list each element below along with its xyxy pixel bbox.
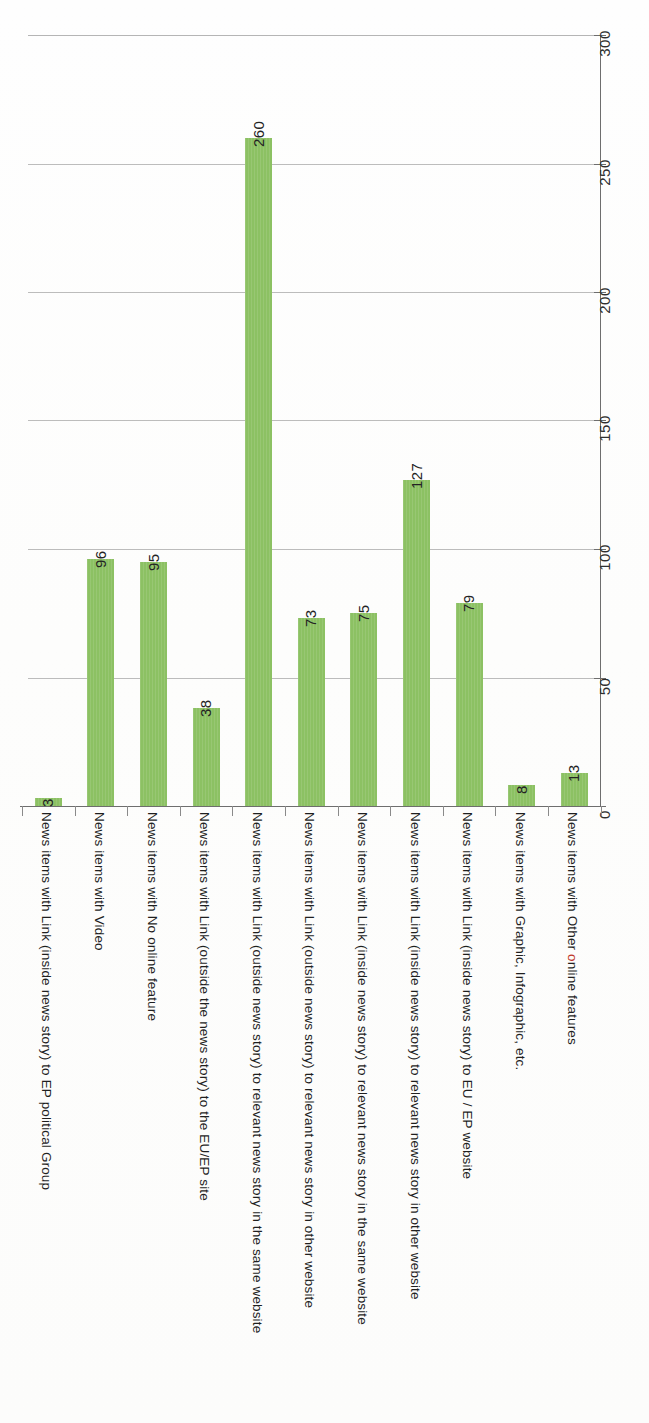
value-tick-label-200: 200 <box>596 287 613 314</box>
category-label: News items with Link (outside news story… <box>250 812 265 1333</box>
bar-value-label: 260 <box>250 121 267 147</box>
category-label: News items with Graphic, Infographic, et… <box>513 812 528 1070</box>
bar-value-label: 8 <box>513 786 530 795</box>
gridline-250 <box>28 164 600 165</box>
category-label: News items with Link (inside news story)… <box>355 812 370 1325</box>
category-label: News items with Other online features <box>565 812 580 1045</box>
gridline-300 <box>28 35 600 36</box>
value-tick-label-150: 150 <box>596 415 613 442</box>
bar-value-label: 95 <box>145 553 162 571</box>
bar <box>140 562 167 806</box>
bar-value-label: 3 <box>39 799 56 808</box>
bar-value-label: 73 <box>302 610 319 628</box>
gridline-200 <box>28 292 600 293</box>
bar <box>403 480 430 806</box>
category-labels-layer: News items with Link (inside news story)… <box>0 812 649 1423</box>
bar-value-label: 75 <box>355 605 372 623</box>
category-label: News items with No online feature <box>145 812 160 1021</box>
category-label: News items with Link (inside news story)… <box>39 812 54 1190</box>
bar-value-label: 38 <box>197 700 214 718</box>
category-label: News items with Video <box>92 812 107 951</box>
value-tick-label-250: 250 <box>596 159 613 186</box>
bar <box>350 613 377 806</box>
gridline-100 <box>28 549 600 550</box>
chart-plot-area: 300 250 200 150 100 50 0 396953826073751… <box>0 0 649 820</box>
bar <box>87 559 114 806</box>
category-label: News items with Link (inside news story)… <box>460 812 475 1179</box>
bar-value-label: 79 <box>460 594 477 612</box>
bar <box>193 708 220 806</box>
category-label: News items with Link (inside news story)… <box>408 812 423 1300</box>
value-tick-label-50: 50 <box>596 678 613 696</box>
category-axis-line <box>20 806 602 807</box>
value-tick-label-100: 100 <box>596 544 613 571</box>
bar <box>298 618 325 806</box>
bar <box>456 603 483 806</box>
bar-value-label: 127 <box>408 462 425 488</box>
bar <box>245 138 272 806</box>
category-label: News items with Link (outside the news s… <box>197 812 212 1201</box>
category-label: News items with Link (outside news story… <box>302 812 317 1308</box>
tinted-text: o <box>565 954 580 962</box>
gridline-150 <box>28 420 600 421</box>
bar-value-label: 96 <box>92 551 109 569</box>
value-tick-label-300: 300 <box>596 30 613 57</box>
bar-value-label: 13 <box>565 764 582 782</box>
